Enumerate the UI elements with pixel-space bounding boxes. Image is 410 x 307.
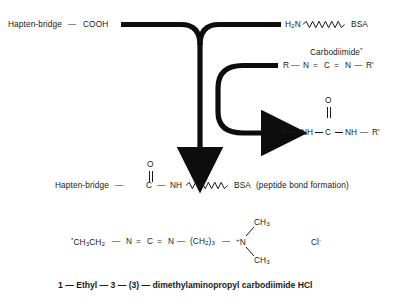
chloride-symbol: Cl: [311, 237, 319, 247]
chloride-counterion: Cl-: [311, 237, 321, 246]
compound-name-caption: 1 — Ethyl — 3 — (3) — dimethylaminopropy…: [58, 280, 313, 290]
edc-methyl-bottom-ch: CH: [254, 255, 266, 265]
chloride-negative-charge: -: [319, 236, 321, 243]
edc-methyl-top-ch: CH: [254, 217, 266, 227]
edc-methyl-bottom-sub: 3: [266, 258, 270, 265]
edc-methyl-top-sub: 3: [266, 220, 270, 227]
edc-methyl-bond-wrap: [0, 0, 410, 307]
edc-methyl-top: CH3: [254, 218, 270, 227]
edc-bond-to-methyl-bottom: [246, 247, 254, 256]
reaction-diagram-figure: Hapten-bridge — COOH H2N BSA Carbodiimid…: [0, 0, 410, 307]
edc-methyl-bottom: CH3: [254, 256, 270, 265]
edc-bond-to-methyl-top: [246, 227, 254, 236]
